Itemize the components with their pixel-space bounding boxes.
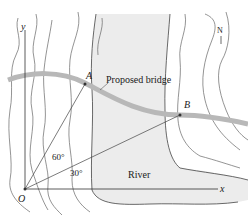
point-a-label: A (85, 70, 93, 81)
point-b-marker (179, 114, 182, 117)
y-axis-label: y (20, 21, 26, 32)
bridge-label: Proposed bridge (106, 74, 172, 85)
river-bridge-diagram: y x O A B Proposed bridge River 60° 30° … (0, 0, 248, 221)
river-bank-right (165, 14, 248, 180)
north-label: N (217, 26, 223, 35)
point-b-label: B (184, 99, 190, 110)
origin-marker (24, 188, 27, 191)
river-region (91, 14, 248, 204)
x-axis-label: x (219, 183, 225, 194)
angle-30-label: 30° (70, 168, 83, 178)
point-a-marker (84, 83, 87, 86)
angle-60-label: 60° (52, 152, 65, 162)
river-label: River (128, 169, 151, 180)
origin-label: O (18, 193, 25, 204)
